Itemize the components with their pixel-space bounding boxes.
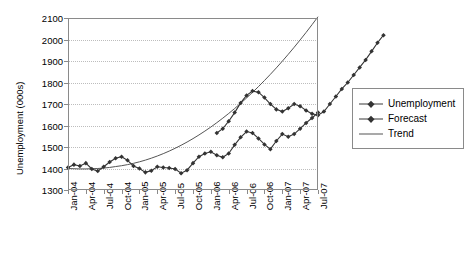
x-tick-label: Jul-06 — [247, 183, 258, 209]
x-tick-label: Apr-04 — [86, 182, 97, 211]
unemployment-marker — [209, 149, 214, 154]
x-tick-label: Jul-04 — [104, 183, 115, 209]
x-tick-label: Apr-05 — [157, 182, 168, 211]
legend-item: Trend — [359, 126, 455, 141]
legend-item: Forecast — [359, 111, 455, 126]
x-tick-label: Apr-07 — [300, 182, 311, 211]
x-tick-label: Apr-06 — [229, 182, 240, 211]
forecast-marker — [280, 109, 285, 114]
forecast-marker — [310, 111, 315, 116]
x-tick-label: Jan-04 — [68, 181, 79, 210]
x-tick-label: Jan-05 — [139, 181, 150, 210]
legend-label: Unemployment — [388, 98, 455, 109]
unemployment-marker — [167, 166, 172, 171]
x-tick-label: Jul-05 — [175, 183, 186, 209]
legend-label: Trend — [388, 128, 414, 139]
chart-legend: Unemployment Forecast Trend — [352, 88, 464, 149]
unemployment-marker — [215, 153, 220, 158]
unemployment-marker — [161, 165, 166, 170]
x-tick-label: Oct-05 — [193, 182, 204, 211]
unemployment-series-icon — [359, 98, 383, 110]
unemployment-chart: Unemployment (000s) 13001400150016001700… — [0, 0, 476, 260]
plot-area: 130014001500160017001800190020002100 Jan… — [68, 18, 318, 190]
x-tick-label: Oct-04 — [122, 182, 133, 211]
unemployment-marker — [286, 134, 291, 139]
legend-item: Unemployment — [359, 96, 455, 111]
unemployment-marker — [203, 151, 208, 156]
trend-line — [68, 17, 318, 169]
x-tick-label: Jan-07 — [282, 181, 293, 210]
legend-label: Forecast — [388, 113, 427, 124]
x-tick-label: Jan-06 — [211, 181, 222, 210]
y-axis-title: Unemployment (000s) — [14, 82, 25, 175]
unemployment-marker — [72, 162, 77, 167]
trend-series-icon — [359, 128, 383, 140]
forecast-series-icon — [359, 113, 383, 125]
unemployment-marker — [78, 164, 83, 169]
x-tick-label: Oct-06 — [264, 182, 275, 211]
x-tick-label: Jul-07 — [318, 183, 329, 209]
series-canvas — [68, 18, 318, 190]
